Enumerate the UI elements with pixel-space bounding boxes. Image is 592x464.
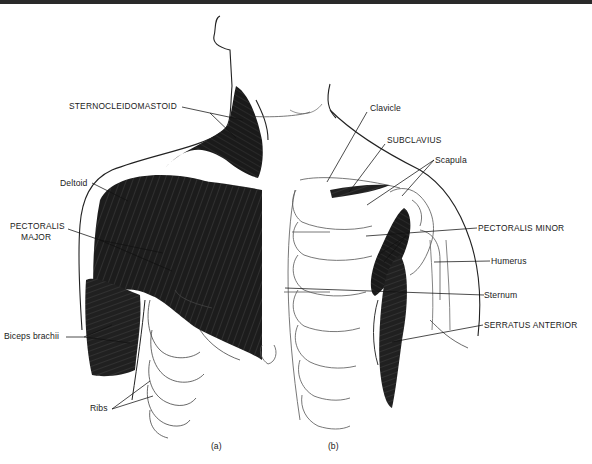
label-scapula: Scapula xyxy=(435,155,467,165)
panel-label-a: (a) xyxy=(211,441,222,451)
label-pectoralis-minor: PECTORALIS MINOR xyxy=(478,223,564,233)
label-pectoralis-major-1: PECTORALIS xyxy=(10,221,65,231)
label-biceps-brachii: Biceps brachii xyxy=(4,331,59,341)
biceps-brachii-muscle xyxy=(85,279,140,377)
label-humerus: Humerus xyxy=(491,256,527,266)
label-serratus-anterior: SERRATUS ANTERIOR xyxy=(484,320,578,330)
label-deltoid: Deltoid xyxy=(60,178,87,188)
label-subclavius: SUBCLAVIUS xyxy=(387,135,441,145)
label-sternocleidomastoid: STERNOCLEIDOMASTOID xyxy=(69,101,177,111)
label-sternum: Sternum xyxy=(484,290,517,300)
label-pectoralis-major-2: MAJOR xyxy=(21,232,51,242)
label-ribs: Ribs xyxy=(90,403,108,413)
label-clavicle: Clavicle xyxy=(370,103,401,113)
sternocleidomastoid-muscle xyxy=(165,86,263,178)
panel-label-b: (b) xyxy=(328,441,339,451)
